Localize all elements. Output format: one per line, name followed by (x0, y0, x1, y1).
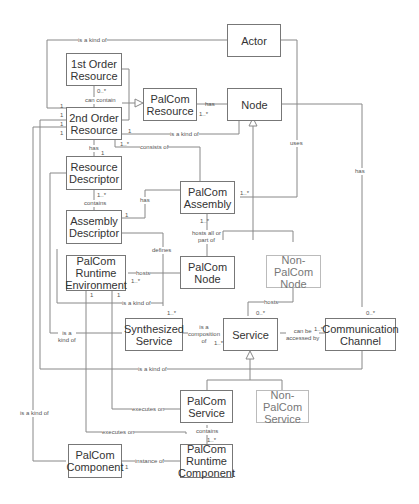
class-node[interactable]: Node (227, 88, 282, 121)
label-synth-is-kind-of: is a kind of (58, 330, 76, 344)
label-can-contain: can contain (85, 97, 116, 104)
mult-hosts-service: 0..* (256, 310, 265, 317)
class-label: PalCom Node (188, 261, 227, 285)
class-label: Non- PalCom Service (263, 389, 302, 425)
class-label: PalCom Assembly (184, 186, 232, 210)
mult-uses: 1..* (240, 190, 249, 197)
class-communication-channel[interactable]: Communication Channel (325, 318, 396, 351)
class-label: PalCom Resource (146, 93, 193, 117)
label-executes-on-1: executes on (132, 406, 164, 413)
mult-hosts-env: 1..* (131, 278, 140, 285)
mult-contains-descriptor: 1..* (97, 192, 106, 199)
class-label: Service (232, 329, 269, 341)
mult-node-is-kind-of: 1 (128, 128, 131, 135)
label-hosts-env: hosts (136, 270, 150, 277)
mult-assembly-has: 1 (125, 212, 128, 219)
mult-can-contain: 0..* (97, 88, 106, 95)
class-palcom-component[interactable]: PalCom Component (68, 444, 122, 478)
class-service[interactable]: Service (223, 318, 278, 351)
label-assembly-has: has (140, 197, 150, 204)
uml-class-diagram: Actor 1st Order Resource PalCom Resource… (0, 0, 419, 504)
label-has-descriptor: has (89, 145, 99, 152)
label-instance-of: instance of (135, 458, 164, 465)
class-label: 1st Order Resource (70, 58, 117, 82)
class-palcom-assembly[interactable]: PalCom Assembly (180, 181, 235, 214)
label-executes-on-2: executes on (102, 429, 134, 436)
class-assembly-descriptor[interactable]: Assembly Descriptor (66, 210, 122, 244)
mult-composition: 1..* (214, 340, 223, 347)
label-has-resource: has (205, 101, 215, 108)
class-second-order-resource[interactable]: 2nd Order Resource (66, 107, 122, 140)
mult-contains-component: 1..* (207, 437, 216, 444)
label-defines: defines (152, 247, 171, 254)
class-first-order-resource[interactable]: 1st Order Resource (66, 53, 122, 86)
mult-has-resource: 1..* (199, 111, 208, 118)
mult-synth: 1..* (167, 310, 176, 317)
class-label: Non- PalCom Node (274, 254, 313, 290)
class-synthesized-service[interactable]: Synthesized Service (125, 318, 183, 351)
label-hosts-all-or-part-of: hosts all or part of (192, 230, 221, 244)
class-label: Actor (241, 35, 267, 47)
mult-consists-of: 1..* (120, 141, 129, 148)
class-label: Assembly Descriptor (69, 215, 119, 239)
class-non-palcom-service[interactable]: Non- PalCom Service (256, 390, 309, 423)
mult-second-order-3: 1 (60, 121, 63, 128)
class-label: Resource Descriptor (69, 161, 119, 185)
class-label: 2nd Order Resource (69, 112, 119, 136)
label-consists-of: consists of (140, 144, 168, 151)
mult-instance-of: 1 (125, 464, 128, 471)
class-label: PalCom Runtime Component (178, 443, 235, 479)
label-contains-descriptor: contains (84, 200, 106, 207)
class-palcom-runtime-component[interactable]: PalCom Runtime Component (180, 444, 233, 478)
label-component-is-kind-of: is a kind of (20, 410, 49, 417)
label-uses: uses (290, 140, 303, 147)
class-label: PalCom Service (187, 395, 226, 419)
label-actor-is-kind-of: is a kind of (78, 37, 107, 44)
class-label: Communication Channel (322, 323, 398, 347)
label-hosts-service: hosts (264, 299, 278, 306)
label-has-channel: has (355, 168, 365, 175)
class-non-palcom-node[interactable]: Non- PalCom Node (266, 255, 321, 288)
class-label: PalCom Runtime Environment (65, 255, 127, 291)
class-palcom-runtime-environment[interactable]: PalCom Runtime Environment (66, 255, 126, 291)
mult-accessed: 1..* (314, 326, 323, 333)
mult-env-right: 1 (117, 292, 120, 299)
class-palcom-node[interactable]: PalCom Node (180, 256, 235, 289)
mult-hosts-all: 1..* (200, 218, 209, 225)
mult-env-left: 1 (90, 292, 93, 299)
mult-second-order-1: 1 (60, 103, 63, 110)
class-palcom-service[interactable]: PalCom Service (180, 390, 233, 423)
label-contains-component: contains (196, 428, 218, 435)
class-label: Synthesized Service (124, 323, 184, 347)
label-rt-is-kind-of: is a kind of (122, 300, 151, 307)
class-label: PalCom Component (67, 449, 124, 473)
mult-second-order-2: 1 (60, 112, 63, 119)
class-resource-descriptor[interactable]: Resource Descriptor (66, 156, 122, 190)
label-node-is-kind-of: is a kind of (170, 131, 199, 138)
mult-channel: 0..* (366, 310, 375, 317)
mult-second-order-4: 1 (60, 130, 63, 137)
label-service-is-kind-of: is a kind of (138, 366, 167, 373)
class-actor[interactable]: Actor (227, 24, 281, 57)
class-label: Node (241, 99, 267, 111)
class-palcom-resource[interactable]: PalCom Resource (143, 88, 197, 121)
mult-has-descriptor: 1 (101, 150, 104, 157)
